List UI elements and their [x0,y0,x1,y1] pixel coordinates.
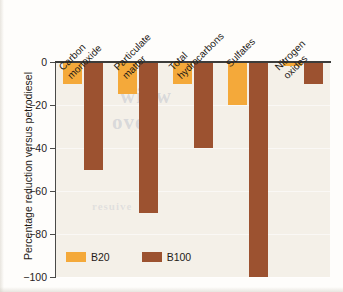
gridline [56,234,330,235]
y-axis-title: Percentage reduction versus petrodiesel [22,46,34,286]
bar-b100-carbon-monoxide [84,62,103,170]
bar-b100-sulfates [249,62,268,277]
y-tick-mark [50,105,55,106]
chart-legend: B20 B100 [66,252,191,263]
gridline [56,277,330,278]
y-tick-mark [50,62,55,63]
legend-swatch-b100 [142,252,162,262]
y-axis-line [55,62,56,278]
y-tick-mark [50,148,55,149]
bar-b100-total-hydrocarbons [194,62,213,148]
y-tick-label: 0 [41,57,47,68]
y-tick-mark [50,191,55,192]
y-tick-mark [50,277,55,278]
gridline [56,191,330,192]
bar-b100-particulate-matter [139,62,158,213]
bar-b100-nitrogen-oxides [304,62,323,84]
y-tick-mark [50,234,55,235]
chart-figure: winw oveo resuive 0−20−40−60−80−100 Perc… [0,0,343,292]
legend-label-b20: B20 [91,252,110,263]
scan-edge-shadow-left [0,0,4,292]
scan-edge-shadow-bottom [0,287,343,292]
legend-item-b20: B20 [66,252,110,263]
legend-label-b100: B100 [167,252,192,263]
legend-swatch-b20 [66,252,86,262]
legend-item-b100: B100 [142,252,192,263]
